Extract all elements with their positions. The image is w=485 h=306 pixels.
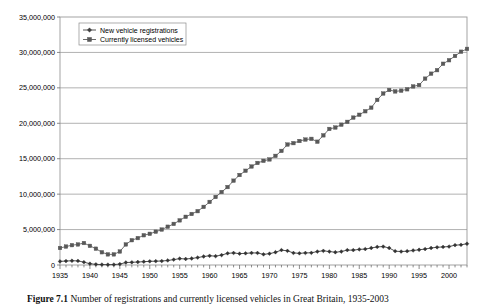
caption-text: Number of registrations and currently li… bbox=[70, 294, 388, 304]
y-axis-label: 15,000,000 bbox=[19, 154, 55, 163]
data-point-marker bbox=[375, 98, 379, 102]
data-point-marker bbox=[381, 92, 385, 96]
y-axis-label: 0 bbox=[51, 261, 55, 270]
x-axis-label: 1945 bbox=[112, 271, 128, 280]
x-axis-label: 1990 bbox=[381, 271, 397, 280]
x-axis-label: 1935 bbox=[52, 271, 68, 280]
x-axis-label: 1970 bbox=[261, 271, 277, 280]
data-point-marker bbox=[214, 195, 218, 199]
y-axis-label: 30,000,000 bbox=[19, 48, 55, 57]
data-point-marker bbox=[232, 179, 236, 183]
figure-caption: Figure 7.1 Number of registrations and c… bbox=[27, 293, 457, 306]
data-point-marker bbox=[304, 138, 308, 142]
data-point-marker bbox=[124, 243, 128, 247]
data-point-marker bbox=[64, 245, 68, 249]
vehicle-registrations-chart: 35,000,00030,000,00025,000,00020,000,000… bbox=[0, 0, 485, 306]
x-axis-label: 1995 bbox=[411, 271, 427, 280]
data-point-marker bbox=[417, 83, 421, 87]
x-axis-label: 1955 bbox=[172, 271, 188, 280]
data-point-marker bbox=[340, 123, 344, 127]
data-point-marker bbox=[351, 116, 355, 120]
data-point-marker bbox=[106, 253, 110, 257]
data-point-marker bbox=[196, 209, 200, 213]
data-point-marker bbox=[112, 253, 116, 257]
data-point-marker bbox=[286, 143, 290, 147]
data-point-marker bbox=[130, 238, 134, 242]
data-point-marker bbox=[363, 109, 367, 113]
data-point-marker bbox=[172, 222, 176, 226]
data-point-marker bbox=[393, 90, 397, 94]
x-axis-label: 1965 bbox=[232, 271, 248, 280]
data-point-marker bbox=[220, 190, 224, 194]
data-point-marker bbox=[328, 127, 332, 131]
data-point-marker bbox=[256, 161, 260, 165]
data-point-marker bbox=[262, 159, 266, 163]
data-point-marker bbox=[465, 47, 469, 51]
data-point-marker bbox=[154, 230, 158, 234]
data-point-marker bbox=[357, 113, 361, 117]
data-point-marker bbox=[411, 85, 415, 89]
data-point-marker bbox=[453, 54, 457, 58]
data-point-marker bbox=[310, 137, 314, 141]
data-point-marker bbox=[142, 233, 146, 237]
x-axis-label: 1940 bbox=[82, 271, 98, 280]
data-point-marker bbox=[190, 212, 194, 216]
data-point-marker bbox=[184, 215, 188, 219]
data-point-marker bbox=[250, 165, 254, 169]
data-point-marker bbox=[58, 246, 62, 250]
x-axis-label: 1950 bbox=[142, 271, 158, 280]
x-axis-label: 1985 bbox=[351, 271, 367, 280]
plot-area bbox=[60, 17, 467, 265]
data-point-marker bbox=[94, 247, 98, 251]
data-point-marker bbox=[268, 158, 272, 162]
data-point-marker bbox=[82, 241, 86, 245]
y-axis-label: 35,000,000 bbox=[19, 13, 55, 22]
data-point-marker bbox=[405, 87, 409, 91]
data-point-marker bbox=[178, 219, 182, 223]
x-axis-label: 2000 bbox=[441, 271, 457, 280]
data-point-marker bbox=[369, 106, 373, 110]
data-point-marker bbox=[76, 243, 80, 247]
data-point-marker bbox=[70, 243, 74, 247]
data-point-marker bbox=[447, 58, 451, 62]
data-point-marker bbox=[316, 140, 320, 144]
data-point-marker bbox=[208, 200, 212, 204]
data-point-marker bbox=[148, 232, 152, 236]
data-point-marker bbox=[118, 250, 122, 254]
y-axis-label: 25,000,000 bbox=[19, 83, 55, 92]
y-axis-label: 10,000,000 bbox=[19, 190, 55, 199]
data-point-marker bbox=[435, 68, 439, 72]
data-point-marker bbox=[136, 236, 140, 240]
y-axis-label: 20,000,000 bbox=[19, 119, 55, 128]
caption-label: Figure 7.1 bbox=[27, 294, 68, 304]
data-point-marker bbox=[459, 50, 463, 54]
legend-entry-label: New vehicle registrations bbox=[100, 27, 178, 35]
data-point-marker bbox=[238, 173, 242, 177]
data-point-marker bbox=[100, 250, 104, 254]
data-point-marker bbox=[244, 169, 248, 173]
data-point-marker bbox=[399, 89, 403, 93]
legend-entry-label: Currently licensed vehicles bbox=[100, 36, 184, 44]
data-point-marker bbox=[334, 126, 338, 130]
data-point-marker bbox=[226, 185, 230, 189]
figure-container: 35,000,00030,000,00025,000,00020,000,000… bbox=[0, 0, 485, 306]
y-axis-label: 5,000,000 bbox=[23, 225, 55, 234]
data-point-marker bbox=[88, 244, 92, 248]
data-point-marker bbox=[387, 88, 391, 92]
data-point-marker bbox=[280, 149, 284, 153]
x-axis-label: 1975 bbox=[291, 271, 307, 280]
data-point-marker bbox=[166, 225, 170, 229]
data-point-marker bbox=[423, 77, 427, 81]
data-point-marker bbox=[429, 72, 433, 76]
data-point-marker bbox=[202, 205, 206, 209]
data-point-marker bbox=[274, 154, 278, 158]
x-axis-label: 1980 bbox=[321, 271, 337, 280]
data-point-marker bbox=[441, 62, 445, 66]
data-point-marker bbox=[345, 120, 349, 124]
data-point-marker bbox=[292, 141, 296, 145]
data-point-marker bbox=[160, 228, 164, 232]
square-marker-icon bbox=[87, 37, 91, 41]
data-point-marker bbox=[322, 134, 326, 138]
data-point-marker bbox=[298, 139, 302, 143]
x-axis-label: 1960 bbox=[202, 271, 218, 280]
